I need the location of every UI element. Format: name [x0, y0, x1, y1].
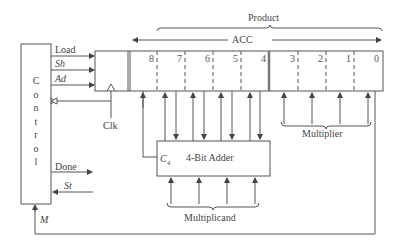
control-letter: o [21, 88, 51, 102]
bit-6: 6 [198, 54, 210, 64]
bit-5: 5 [226, 54, 238, 64]
clock-label: Clk [103, 121, 117, 131]
control-letter: o [21, 142, 51, 156]
product-label: Product [248, 13, 279, 23]
add-label: Ad [55, 74, 66, 84]
control-letter: l [21, 155, 51, 169]
bit-4: 4 [254, 54, 266, 64]
adder-label: 4-Bit Adder [186, 153, 234, 163]
carry-label: C4 [160, 154, 170, 168]
bit-8: 8 [142, 54, 154, 64]
control-letter: t [21, 115, 51, 129]
start-label: St [64, 181, 72, 191]
done-label: Done [55, 162, 77, 172]
control-label: C o n t r o l [21, 74, 51, 169]
multiplicand-label: Multiplicand [184, 213, 236, 223]
shift-label: Sh [55, 59, 65, 69]
acc-label: ACC [232, 35, 253, 45]
bit-7: 7 [170, 54, 182, 64]
carry-letter: C [160, 153, 167, 164]
multiplier-label: Multiplier [302, 129, 343, 139]
bit-3: 3 [283, 54, 295, 64]
bit-1: 1 [339, 54, 351, 64]
control-letter: n [21, 101, 51, 115]
m-label: M [40, 215, 48, 225]
control-letter: r [21, 128, 51, 142]
control-letter: C [21, 74, 51, 88]
carry-subscript: 4 [167, 159, 171, 167]
multiplier-diagram [0, 0, 400, 248]
load-label: Load [55, 45, 76, 55]
bit-2: 2 [311, 54, 323, 64]
bit-0: 0 [367, 54, 379, 64]
